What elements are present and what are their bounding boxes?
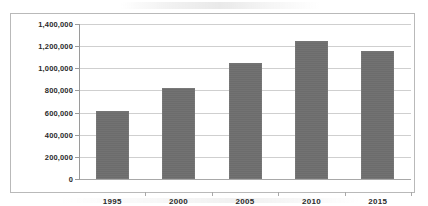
- x-axis-tick-mark: [278, 192, 279, 196]
- y-axis-tick-mark: [75, 24, 79, 25]
- y-axis-tick-label: 1,200,000: [11, 42, 73, 51]
- plot-area: [79, 24, 411, 179]
- y-axis-tick-label: 200,000: [11, 152, 73, 161]
- gridline: [79, 24, 411, 25]
- gridline: [79, 179, 411, 180]
- x-axis-tick-label: 1995: [103, 197, 122, 206]
- x-axis-tick-label: 2000: [169, 197, 188, 206]
- bar: [361, 51, 394, 179]
- y-axis-tick-mark: [75, 90, 79, 91]
- y-axis-tick-label: 400,000: [11, 130, 73, 139]
- y-axis-tick-labels: 0200,000400,000600,000800,0001,000,0001,…: [11, 14, 73, 192]
- y-axis-tick-mark: [75, 157, 79, 158]
- x-axis-tick-mark: [345, 192, 346, 196]
- y-axis-tick-label: 1,000,000: [11, 64, 73, 73]
- x-axis-tick-mark: [212, 192, 213, 196]
- y-axis-tick-label: 0: [11, 175, 73, 184]
- y-axis-tick-label: 1,400,000: [11, 20, 73, 29]
- x-axis-tick-mark: [145, 192, 146, 196]
- x-axis-tick-mark: [411, 192, 412, 196]
- gridline: [79, 46, 411, 47]
- bar: [96, 111, 129, 179]
- x-axis-tick-label: 2005: [236, 197, 255, 206]
- bar: [162, 88, 195, 179]
- y-axis-tick-mark: [75, 179, 79, 180]
- y-axis-tick-label: 800,000: [11, 86, 73, 95]
- y-axis-tick-mark: [75, 46, 79, 47]
- x-axis-tick-label: 2015: [368, 197, 387, 206]
- x-axis-tick-label: 2010: [302, 197, 321, 206]
- bar: [229, 63, 262, 179]
- scan-artifact-top: [120, 2, 320, 9]
- chart-frame: 0200,000400,000600,000800,0001,000,0001,…: [10, 13, 415, 193]
- y-axis-tick-mark: [75, 68, 79, 69]
- y-axis-tick-label: 600,000: [11, 108, 73, 117]
- y-axis-tick-mark: [75, 113, 79, 114]
- bar: [295, 41, 328, 179]
- y-axis-line: [79, 24, 80, 180]
- y-axis-tick-mark: [75, 135, 79, 136]
